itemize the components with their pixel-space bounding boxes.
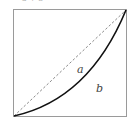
lorenz-diagram: a b: [0, 0, 131, 123]
label-a: a: [77, 63, 84, 76]
equality-diagonal: [14, 10, 126, 116]
label-b: b: [96, 82, 103, 95]
